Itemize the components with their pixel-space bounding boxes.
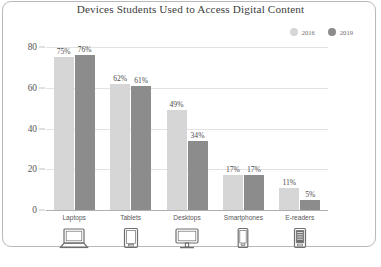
x-axis-category-label: Laptops bbox=[62, 214, 85, 221]
e-reader-icon bbox=[292, 227, 308, 251]
y-axis-tick-mark bbox=[39, 87, 45, 88]
bar-smartphones-2016[interactable]: 17% bbox=[223, 175, 243, 210]
bar-group: 75%76%Laptops bbox=[54, 47, 95, 210]
y-axis-tick-mark bbox=[39, 128, 45, 129]
bar-value-label: 11% bbox=[282, 178, 296, 187]
chart-title: Devices Students Used to Access Digital … bbox=[0, 3, 381, 15]
legend-label-2016: 2016 bbox=[302, 29, 315, 36]
legend-item-2016[interactable]: 2016 bbox=[290, 28, 315, 36]
laptop-icon bbox=[59, 227, 89, 251]
legend-item-2019[interactable]: 2019 bbox=[328, 28, 353, 36]
bar-value-label: 61% bbox=[134, 76, 148, 85]
bar-value-label: 5% bbox=[305, 190, 315, 199]
device-icon-row bbox=[46, 227, 328, 255]
bar-tablets-2016[interactable]: 62% bbox=[110, 84, 130, 210]
smartphone-icon bbox=[236, 227, 250, 251]
bar-group: 62%61%Tablets bbox=[110, 47, 151, 210]
legend-swatch-2019 bbox=[328, 28, 336, 36]
x-axis-category-label: Smartphones bbox=[224, 214, 263, 221]
y-axis-tick-label: 40 bbox=[28, 124, 37, 134]
bar-value-label: 17% bbox=[247, 165, 261, 174]
bar-value-label: 34% bbox=[191, 131, 205, 140]
y-axis-tick-label: 80 bbox=[28, 42, 37, 52]
bar-value-label: 17% bbox=[226, 165, 240, 174]
x-axis-category-label: Tablets bbox=[120, 214, 141, 221]
bar-smartphones-2019[interactable]: 17% bbox=[244, 175, 264, 210]
tablet-icon bbox=[122, 227, 140, 251]
bar-desktops-2019[interactable]: 34% bbox=[188, 141, 208, 210]
bar-laptops-2019[interactable]: 76% bbox=[75, 55, 95, 210]
y-axis-tick-mark bbox=[39, 47, 45, 48]
bar-group: 11%5%E-readers bbox=[279, 47, 320, 210]
y-axis-tick-mark bbox=[39, 169, 45, 170]
legend-swatch-2016 bbox=[290, 28, 298, 36]
bar-e-readers-2016[interactable]: 11% bbox=[279, 188, 299, 210]
bar-value-label: 75% bbox=[57, 47, 71, 56]
x-axis-category-label: Desktops bbox=[173, 214, 201, 221]
bar-group: 49%34%Desktops bbox=[167, 47, 208, 210]
legend-label-2019: 2019 bbox=[340, 29, 353, 36]
bar-desktops-2016[interactable]: 49% bbox=[167, 110, 187, 210]
bar-value-label: 76% bbox=[78, 45, 92, 54]
bar-laptops-2016[interactable]: 75% bbox=[54, 57, 74, 210]
chart-figure: Devices Students Used to Access Digital … bbox=[0, 0, 381, 267]
bar-tablets-2019[interactable]: 61% bbox=[131, 86, 151, 210]
desktop-monitor-icon bbox=[174, 227, 200, 251]
y-axis-tick-label: 60 bbox=[28, 83, 37, 93]
x-axis-line bbox=[46, 210, 328, 211]
bar-value-label: 62% bbox=[113, 74, 127, 83]
y-axis-tick-label: 0 bbox=[32, 205, 37, 215]
chart-legend: 2016 2019 bbox=[290, 28, 353, 36]
bar-value-label: 49% bbox=[170, 100, 184, 109]
y-axis-tick-mark bbox=[39, 210, 45, 211]
x-axis-category-label: E-readers bbox=[285, 214, 314, 221]
bar-e-readers-2019[interactable]: 5% bbox=[300, 200, 320, 210]
bar-group: 17%17%Smartphones bbox=[223, 47, 264, 210]
y-axis-tick-label: 20 bbox=[28, 164, 37, 174]
plot-area: 02040608075%76%Laptops62%61%Tablets49%34… bbox=[46, 47, 328, 210]
